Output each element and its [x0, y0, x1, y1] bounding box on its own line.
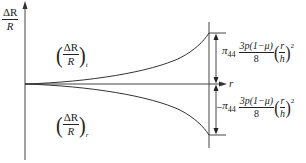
- bottom-dimension-arrow-base-icon: [214, 85, 219, 92]
- formula-top-power: 2: [291, 43, 295, 50]
- formula-bottom-ratio-den: h: [280, 108, 285, 119]
- curve-t-numerator: ΔR: [63, 42, 79, 55]
- formula-top-coef-sub: 44: [228, 51, 236, 60]
- curve-t-denominator: R: [68, 55, 75, 67]
- formula-bottom-power: 2: [291, 98, 295, 105]
- curve-radial: [25, 84, 209, 135]
- r-axis-label: r: [229, 78, 233, 89]
- bottom-dimension-arrow-icon: [214, 128, 219, 135]
- y-axis-arrow-icon: [23, 1, 28, 9]
- top-dimension-arrow-base-icon: [214, 77, 219, 84]
- formula-top-frac-num: 3p(1−μ): [239, 41, 274, 53]
- y-axis-label: ΔR R: [2, 7, 18, 32]
- curve-label-tangential: ( ΔR R )t: [56, 42, 88, 69]
- formula-bottom-frac-num: 3p(1−μ): [239, 96, 274, 108]
- y-label-numerator: ΔR: [2, 7, 18, 20]
- curve-r-numerator: ΔR: [63, 112, 79, 125]
- curve-r-denominator: R: [68, 125, 75, 137]
- top-dimension-arrow-icon: [214, 34, 219, 41]
- diagram-canvas: [0, 0, 306, 163]
- formula-top-ratio-den: h: [280, 53, 285, 64]
- formula-bottom-frac-den: 8: [254, 108, 259, 119]
- formula-top-frac-den: 8: [254, 53, 259, 64]
- curve-tangential: [25, 33, 209, 84]
- y-label-denominator: R: [7, 20, 14, 32]
- curve-r-subscript: r: [86, 131, 89, 139]
- formula-top: π44 3p(1−μ) 8 ( r h )2: [222, 41, 294, 64]
- formula-bottom: − π44 3p(1−μ) 8 ( r h )2: [216, 96, 294, 119]
- curve-label-radial: ( ΔR R )r: [56, 112, 89, 139]
- r-axis-arrow-icon: [219, 82, 227, 87]
- formula-bottom-coef-sub: 44: [228, 106, 236, 115]
